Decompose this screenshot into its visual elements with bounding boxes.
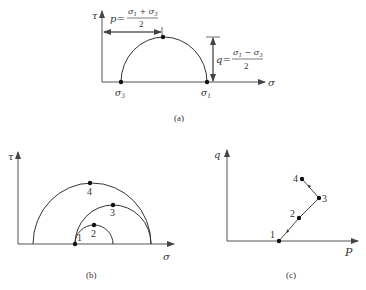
stress-path <box>279 179 319 241</box>
sigma1-label: σ1 <box>201 88 211 99</box>
point-label-2: 2 <box>91 228 96 239</box>
point-label-3: 3 <box>110 207 115 218</box>
stress-path-point-2 <box>297 216 301 220</box>
panel-c: q P 1 2 3 4 (c) <box>214 149 358 280</box>
stress-path-point-4 <box>300 177 304 181</box>
stress-point-2 <box>92 223 96 227</box>
mohr-circle <box>121 37 207 82</box>
path-label-1: 1 <box>270 229 275 240</box>
q-denominator: 2 <box>244 61 249 71</box>
caption-b: (b) <box>86 270 97 280</box>
caption-a: (a) <box>174 113 184 123</box>
point-label-4: 4 <box>87 186 92 197</box>
q-label: q= <box>216 54 231 65</box>
stress-point-4 <box>88 181 92 185</box>
sigma3-label: σ3 <box>115 88 125 99</box>
point-label-1: 1 <box>77 232 82 243</box>
p-label: p= <box>110 13 125 24</box>
sigma-axis-label: σ <box>163 251 171 262</box>
mohr-circle-figure: τ σ σ3 σ1 p= σ1 + σ3 2 q= σ1 − σ3 2 (a) … <box>0 0 366 290</box>
p-axis-label: P <box>344 246 353 259</box>
path-label-3: 3 <box>322 193 327 204</box>
path-label-4: 4 <box>293 173 298 184</box>
path-label-2: 2 <box>290 208 295 219</box>
panel-b: τ σ 1 2 3 4 (b) <box>8 151 174 280</box>
caption-c: (c) <box>286 270 296 280</box>
q-axis-label: q <box>214 149 220 160</box>
panel-a: τ σ σ3 σ1 p= σ1 + σ3 2 q= σ1 − σ3 2 (a) <box>92 7 276 123</box>
circle-top-point <box>161 35 165 39</box>
p-denominator: 2 <box>139 19 144 29</box>
p-numerator: σ1 + σ3 <box>128 7 158 17</box>
stress-path-point-1 <box>277 239 281 243</box>
sigma-axis-label: σ <box>268 77 276 88</box>
sigma1-point <box>205 80 209 84</box>
tau-axis-label: τ <box>92 10 98 21</box>
sigma3-point <box>119 80 123 84</box>
tau-axis-label: τ <box>8 151 14 162</box>
q-numerator: σ1 − σ3 <box>233 48 263 58</box>
stress-path-point-3 <box>317 196 321 200</box>
